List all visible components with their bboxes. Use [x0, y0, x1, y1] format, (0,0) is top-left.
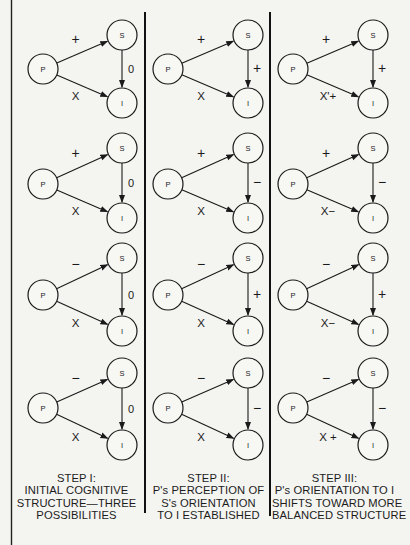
- arrow-p-to-s: [182, 41, 233, 63]
- node-i-label: I: [372, 214, 374, 223]
- sign-p-s: +: [322, 31, 330, 47]
- triad-diagram: PSI++X: [153, 20, 263, 118]
- triad-diagram: PSI−+X−: [278, 243, 388, 346]
- arrow-p-to-s: [307, 41, 358, 63]
- sign-p-i: X: [72, 431, 80, 443]
- node-p-label: P: [40, 404, 45, 413]
- node-s-label: S: [370, 31, 375, 40]
- arrow-p-to-i: [182, 301, 234, 324]
- arrow-p-to-s: [57, 41, 108, 63]
- sign-p-i: X'+: [320, 90, 337, 102]
- node-p-label: P: [165, 65, 170, 74]
- sign-p-s: +: [197, 31, 205, 47]
- diagram-grid: PSI+0XPSI+0XPSI−0XPSI−0XPSI++XPSI+−XPSI−…: [28, 20, 388, 460]
- caption-step-3: STEP III: P's ORIENTATION TO I SHIFTS TO…: [272, 472, 397, 522]
- triad-diagram: PSI+0X: [28, 133, 137, 233]
- caption-line: P's PERCEPTION OF: [146, 484, 271, 496]
- caption-step-title: STEP III:: [272, 472, 397, 484]
- arrow-p-to-i: [57, 414, 108, 438]
- triad-diagram: PSI−−X: [153, 358, 263, 460]
- sign-s-i: 0: [128, 63, 134, 75]
- sign-p-s: +: [322, 145, 330, 161]
- sign-s-i: +: [253, 60, 261, 76]
- sign-p-i: X: [72, 205, 80, 217]
- node-s-label: S: [119, 31, 124, 40]
- arrow-p-to-s: [182, 265, 234, 289]
- triad-diagram: PSI+−X: [153, 133, 263, 233]
- sign-s-i: 0: [128, 403, 134, 415]
- node-p-label: P: [290, 180, 295, 189]
- arrow-p-to-i: [57, 190, 108, 212]
- sign-p-s: +: [197, 145, 205, 161]
- sign-p-s: +: [71, 31, 79, 47]
- node-s-label: S: [119, 144, 124, 153]
- sign-p-i: X: [197, 317, 205, 329]
- node-p-label: P: [40, 291, 45, 300]
- caption-line: BALANCED STRUCTURE: [272, 509, 397, 521]
- sign-s-i: 0: [128, 289, 134, 301]
- sign-p-i: X: [197, 90, 205, 102]
- triad-diagram: PSI−0X: [28, 358, 137, 460]
- sign-s-i: +: [253, 286, 261, 302]
- node-s-label: S: [370, 144, 375, 153]
- sign-s-i: −: [378, 400, 386, 416]
- caption-line: STRUCTURE—THREE: [14, 497, 139, 509]
- node-i-label: I: [247, 441, 249, 450]
- arrow-p-to-s: [307, 155, 359, 178]
- node-p-label: P: [40, 180, 45, 189]
- sign-p-s: −: [197, 256, 205, 272]
- arrow-p-to-s: [57, 379, 108, 401]
- node-p-label: P: [165, 404, 170, 413]
- node-s-label: S: [119, 369, 124, 378]
- arrow-p-to-i: [182, 414, 234, 438]
- node-s-label: S: [119, 254, 124, 263]
- arrow-p-to-s: [307, 379, 359, 402]
- caption-step-2: STEP II: P's PERCEPTION OF S's ORIENTATI…: [146, 472, 271, 522]
- caption-line: S's ORIENTATION: [146, 497, 271, 509]
- sign-p-s: −: [71, 256, 79, 272]
- sign-s-i: −: [253, 400, 261, 416]
- sign-s-i: −: [253, 174, 261, 190]
- sign-p-i: X: [72, 317, 80, 329]
- node-s-label: S: [245, 144, 250, 153]
- node-i-label: I: [372, 441, 374, 450]
- caption-step-title: STEP II:: [146, 472, 271, 484]
- sign-p-s: −: [322, 370, 330, 386]
- caption-step-1: STEP I: INITIAL COGNITIVE STRUCTURE—THRE…: [14, 472, 139, 522]
- sign-p-i: X−: [321, 205, 336, 217]
- sign-p-i: X +: [319, 431, 337, 443]
- caption-step-title: STEP I:: [14, 472, 139, 484]
- node-p-label: P: [290, 404, 295, 413]
- sign-p-s: −: [322, 256, 330, 272]
- sign-p-i: X: [197, 431, 205, 443]
- sign-p-i: X: [197, 205, 205, 217]
- node-s-label: S: [245, 254, 250, 263]
- node-p-label: P: [290, 291, 295, 300]
- node-i-label: I: [121, 327, 123, 336]
- caption-line: POSSIBILITIES: [14, 509, 139, 521]
- node-i-label: I: [121, 214, 123, 223]
- caption-line: TO I ESTABLISHED: [146, 509, 271, 521]
- arrow-p-to-s: [182, 379, 234, 402]
- arrow-p-to-i: [182, 190, 233, 212]
- caption-line: P's ORIENTATION TO I: [272, 484, 397, 496]
- node-i-label: I: [372, 99, 374, 108]
- caption-line: INITIAL COGNITIVE: [14, 484, 139, 496]
- sign-p-s: −: [71, 370, 79, 386]
- sign-s-i: +: [378, 60, 386, 76]
- arrow-p-to-i: [57, 301, 108, 324]
- node-s-label: S: [245, 369, 250, 378]
- node-p-label: P: [290, 65, 295, 74]
- sign-p-i: X−: [321, 317, 336, 329]
- arrow-p-to-s: [307, 265, 359, 289]
- node-i-label: I: [121, 441, 123, 450]
- node-p-label: P: [165, 291, 170, 300]
- triad-diagram: PSI−−X +: [278, 358, 388, 460]
- node-p-label: P: [165, 180, 170, 189]
- node-i-label: I: [121, 99, 123, 108]
- arrow-p-to-s: [57, 155, 108, 178]
- caption-line: SHIFTS TOWARD MORE: [272, 497, 397, 509]
- triad-diagram: PSI+0X: [28, 20, 137, 118]
- arrow-p-to-i: [57, 75, 108, 97]
- sign-p-s: +: [71, 145, 79, 161]
